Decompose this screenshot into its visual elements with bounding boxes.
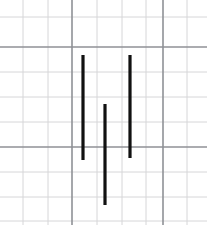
figure-svg — [0, 0, 207, 225]
graph-paper-canvas — [0, 0, 207, 225]
